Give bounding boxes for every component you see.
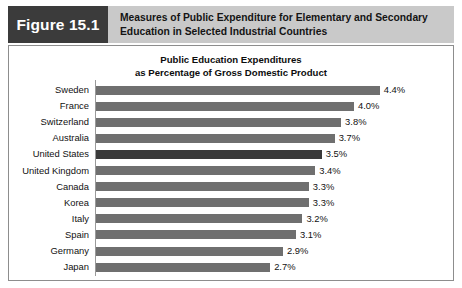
chart-row: Canada3.3% <box>9 179 455 195</box>
bar <box>96 166 315 175</box>
bar-value-label: 3.3% <box>313 195 334 211</box>
bar-value-label: 3.5% <box>326 146 347 162</box>
bar <box>96 230 296 239</box>
chart-row: United States3.5% <box>9 146 455 162</box>
bar <box>96 86 380 95</box>
bar-value-label: 4.0% <box>358 98 379 114</box>
bar-value-label: 3.8% <box>345 114 366 130</box>
chart-title-line-1: Public Education Expenditures <box>9 54 453 67</box>
chart-row: Germany2.9% <box>9 243 455 259</box>
chart-row: Korea3.3% <box>9 195 455 211</box>
chart-row: United Kingdom3.4% <box>9 163 455 179</box>
figure-title-line-1: Measures of Public Expenditure for Eleme… <box>120 11 448 25</box>
figure-title-line-2: Education in Selected Industrial Countri… <box>120 25 448 39</box>
category-label: Japan <box>9 259 89 275</box>
chart-row: Australia3.7% <box>9 130 455 146</box>
chart-row: Switzerland3.8% <box>9 114 455 130</box>
category-label: Germany <box>9 243 89 259</box>
chart-row: Sweden4.4% <box>9 82 455 98</box>
category-label: Australia <box>9 130 89 146</box>
bar-value-label: 3.4% <box>319 163 340 179</box>
bar <box>96 182 309 191</box>
figure-title-band: Measures of Public Expenditure for Eleme… <box>108 6 454 43</box>
bar-chart-plot-area: Sweden4.4%France4.0%Switzerland3.8%Austr… <box>9 80 455 278</box>
category-label: Spain <box>9 227 89 243</box>
bar <box>96 102 354 111</box>
chart-title-line-2: as Percentage of Gross Domestic Product <box>9 67 453 80</box>
chart-row: Japan2.7% <box>9 259 455 275</box>
category-label: Korea <box>9 195 89 211</box>
category-label: Sweden <box>9 82 89 98</box>
bar-value-label: 3.2% <box>306 211 327 227</box>
category-label: United States <box>9 146 89 162</box>
category-label: Italy <box>9 211 89 227</box>
bar <box>96 214 302 223</box>
figure-header: Figure 15.1 Measures of Public Expenditu… <box>8 6 454 43</box>
chart-row: France4.0% <box>9 98 455 114</box>
figure-number-tag: Figure 15.1 <box>8 6 108 43</box>
bar-highlighted <box>96 150 322 159</box>
bar-value-label: 3.1% <box>300 227 321 243</box>
bar-value-label: 3.7% <box>339 130 360 146</box>
bar <box>96 198 309 207</box>
chart-frame: Public Education Expenditures as Percent… <box>8 45 454 281</box>
chart-row: Italy3.2% <box>9 211 455 227</box>
bar <box>96 134 335 143</box>
category-label: France <box>9 98 89 114</box>
category-label: Switzerland <box>9 114 89 130</box>
chart-title: Public Education Expenditures as Percent… <box>9 54 453 79</box>
bar <box>96 263 270 272</box>
bar <box>96 118 341 127</box>
chart-row: Spain3.1% <box>9 227 455 243</box>
bar-value-label: 2.7% <box>274 259 295 275</box>
bar-value-label: 2.9% <box>287 243 308 259</box>
category-label: United Kingdom <box>9 163 89 179</box>
bar-value-label: 3.3% <box>313 179 334 195</box>
category-label: Canada <box>9 179 89 195</box>
bar <box>96 247 283 256</box>
bar-value-label: 4.4% <box>384 82 405 98</box>
